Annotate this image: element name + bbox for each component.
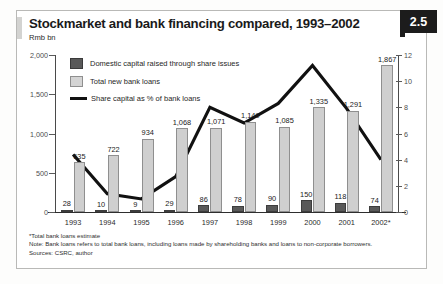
figure-number-badge: 2.5 xyxy=(400,10,437,33)
bar-share-issues xyxy=(369,206,381,212)
bar-share-issues xyxy=(232,206,244,212)
bar-bank-loans xyxy=(279,127,291,212)
bar-bank-loans xyxy=(313,107,325,212)
bar-value-label-bank-loans: 635 xyxy=(63,152,95,161)
line-swatch-icon xyxy=(70,97,87,100)
bar-bank-loans xyxy=(176,128,188,212)
bar-share-issues xyxy=(335,203,347,212)
x-axis-baseline xyxy=(48,212,406,213)
bar-value-label-bank-loans: 1,335 xyxy=(303,97,335,106)
y-tick-mark-left xyxy=(49,94,55,95)
x-tick-label: 1996 xyxy=(159,218,193,227)
legend-label: Share capital as % of bank loans xyxy=(91,94,200,103)
bar-value-label-bank-loans: 1,867 xyxy=(371,55,403,64)
bar-value-label-bank-loans: 1,291 xyxy=(337,100,369,109)
y-tick-label-right: 2 xyxy=(404,182,428,191)
bar-bank-loans xyxy=(74,162,86,212)
x-tick-label: 1999 xyxy=(261,218,295,227)
y-tick-label-right: 4 xyxy=(404,156,428,165)
y-tick-label-left: 1,500 xyxy=(14,90,48,99)
footnote-sources: Sources: CSRC, author xyxy=(29,249,409,257)
y-tick-mark-left xyxy=(49,212,55,213)
y-tick-mark-left xyxy=(49,173,55,174)
bar-share-issues xyxy=(95,210,107,212)
y-tick-label-right: 0 xyxy=(404,208,428,217)
bar-bank-loans xyxy=(245,122,257,212)
y-tick-label-left: 2,000 xyxy=(14,51,48,60)
bar-share-issues xyxy=(61,210,73,212)
y-tick-label-left: 1,000 xyxy=(14,130,48,139)
y-tick-label-right: 10 xyxy=(404,77,428,86)
x-tick-label: 2000 xyxy=(296,218,330,227)
axis-unit-label: Rmb bn xyxy=(29,33,56,42)
footnotes: *Total bank loans estimate Note: Bank lo… xyxy=(29,232,409,257)
legend-label: Domestic capital raised through share is… xyxy=(90,59,239,68)
x-tick-label: 1994 xyxy=(90,218,124,227)
y-tick-mark-left xyxy=(49,55,55,56)
y-tick-mark-right xyxy=(396,212,402,213)
bar-value-label-bank-loans: 1,149 xyxy=(234,111,266,120)
x-tick-label: 1997 xyxy=(193,218,227,227)
legend-item-bank-loans: Total new bank loans xyxy=(70,75,239,88)
figure-number-badge-tail xyxy=(400,33,405,37)
bar-bank-loans xyxy=(347,111,359,212)
legend-item-share-issues: Domestic capital raised through share is… xyxy=(70,57,239,70)
figure-root: Stockmarket and bank financing compared,… xyxy=(0,0,443,284)
title-accent-mark xyxy=(17,17,22,39)
x-tick-label: 1995 xyxy=(125,218,159,227)
footnote-estimate: *Total bank loans estimate xyxy=(29,232,409,240)
bar-bank-loans xyxy=(210,128,222,212)
x-tick-label: 1993 xyxy=(56,218,90,227)
y-tick-label-left: 0 xyxy=(14,208,48,217)
x-tick-label: 2001 xyxy=(330,218,364,227)
legend-item-share-pct: Share capital as % of bank loans xyxy=(70,92,239,105)
light-swatch-icon xyxy=(70,76,83,87)
legend: Domestic capital raised through share is… xyxy=(70,57,239,110)
legend-label: Total new bank loans xyxy=(90,77,160,86)
x-tick-label: 2002* xyxy=(364,218,398,227)
bar-share-issues xyxy=(164,210,176,212)
footnote-note: Note: Bank loans refers to total bank lo… xyxy=(29,240,409,248)
bar-value-label-bank-loans: 934 xyxy=(132,128,164,137)
dark-swatch-icon xyxy=(70,58,83,69)
bar-value-label-bank-loans: 722 xyxy=(98,145,130,154)
bar-bank-loans xyxy=(142,139,154,212)
x-tick-label: 1998 xyxy=(227,218,261,227)
bar-value-label-bank-loans: 1,068 xyxy=(166,118,198,127)
y-tick-label-right: 8 xyxy=(404,103,428,112)
bar-share-issues xyxy=(130,210,142,212)
bar-value-label-bank-loans: 1,085 xyxy=(269,116,301,125)
bar-bank-loans xyxy=(108,155,120,212)
y-tick-mark-left xyxy=(49,134,55,135)
bar-bank-loans xyxy=(381,65,393,212)
page-title: Stockmarket and bank financing compared,… xyxy=(29,16,379,31)
bar-share-issues xyxy=(198,205,210,212)
y-tick-label-left: 500 xyxy=(14,169,48,178)
bar-share-issues xyxy=(301,200,313,212)
bar-value-label-bank-loans: 1,071 xyxy=(200,117,232,126)
bar-share-issues xyxy=(266,205,278,212)
y-tick-label-right: 12 xyxy=(404,51,428,60)
y-tick-label-right: 6 xyxy=(404,130,428,139)
